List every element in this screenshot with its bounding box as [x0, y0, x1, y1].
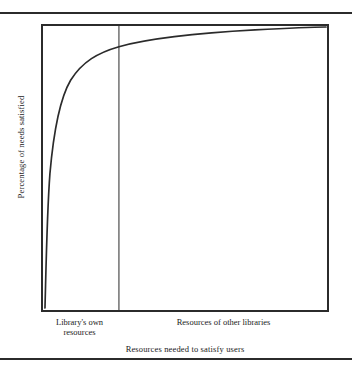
region-label-library-own-line2: resources	[41, 327, 118, 337]
page-rule-bottom	[0, 358, 352, 360]
region-label-library-own: Library's own resources	[41, 317, 118, 337]
plot-frame	[41, 24, 329, 312]
region-label-library-own-line1: Library's own	[41, 317, 118, 327]
plot-drawing	[43, 26, 327, 310]
needs-satisfied-curve	[45, 27, 326, 308]
x-axis-title: Resources needed to satisfy users	[41, 344, 329, 354]
region-label-other-libraries: Resources of other libraries	[118, 317, 329, 327]
y-axis-title: Percentage of needs satisfied	[16, 67, 26, 227]
figure-page: Percentage of needs satisfied Library's …	[0, 0, 352, 374]
figure-container: Percentage of needs satisfied Library's …	[0, 14, 352, 358]
